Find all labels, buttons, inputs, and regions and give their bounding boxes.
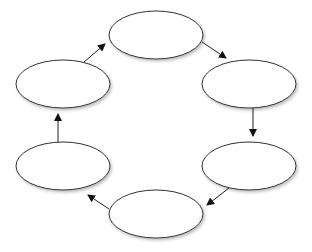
arrow-top-to-right-upper: [202, 42, 226, 58]
node-bottom[interactable]: [109, 190, 203, 238]
node-left-lower[interactable]: [16, 142, 110, 190]
node-left-upper[interactable]: [16, 60, 110, 108]
node-top[interactable]: [109, 11, 203, 59]
arrow-bottom-to-left-lower: [88, 195, 109, 209]
cycle-diagram: [0, 0, 312, 252]
node-right-upper[interactable]: [202, 60, 296, 108]
arrow-left-upper-to-top: [84, 44, 105, 62]
arrow-right-lower-to-bottom: [207, 188, 229, 205]
node-right-lower[interactable]: [202, 142, 296, 190]
